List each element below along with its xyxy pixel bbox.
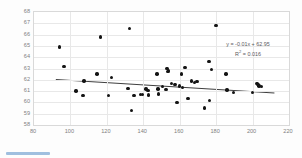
data-point: [180, 72, 183, 75]
gridline-vertical: [253, 12, 254, 125]
r-squared-value: = 0.016: [241, 51, 261, 57]
gridline-vertical: [216, 12, 217, 125]
y-axis-tick-label: 68: [10, 8, 30, 14]
data-point: [186, 97, 189, 100]
trendline-r-squared-text: R2 = 0.016: [205, 48, 291, 58]
data-point: [155, 72, 158, 75]
data-point: [62, 65, 65, 68]
y-axis-tick-label: 67: [10, 19, 30, 25]
y-axis-tick-label: 62: [10, 76, 30, 82]
gridline-horizontal: [34, 114, 289, 115]
data-point: [183, 66, 186, 69]
plot-area: [33, 11, 290, 126]
data-point: [58, 45, 61, 48]
y-axis-tick-labels: 5859606162636465666768: [8, 11, 30, 126]
gridline-horizontal: [34, 69, 289, 70]
data-point: [232, 91, 235, 94]
x-axis-tick-label: 100: [57, 128, 81, 135]
data-point: [164, 88, 167, 91]
x-axis-tick-label: 80: [21, 128, 45, 135]
data-point: [126, 87, 129, 90]
x-axis-tick-label: 120: [94, 128, 118, 135]
y-axis-tick-label: 66: [10, 31, 30, 37]
data-point: [225, 88, 228, 91]
data-point: [214, 24, 217, 27]
trendline-equation-text: y = -0.01x + 62.95: [205, 41, 291, 48]
data-point: [156, 87, 159, 90]
x-axis-tick-labels: 80100120140160180200220: [33, 128, 290, 140]
data-point: [146, 89, 149, 92]
gridline-vertical: [180, 12, 181, 125]
data-point: [175, 101, 178, 104]
trendline-equation-annotation: y = -0.01x + 62.95 R2 = 0.016: [205, 41, 291, 58]
data-point: [82, 79, 85, 82]
x-axis-tick-label: 140: [130, 128, 154, 135]
data-point: [203, 106, 206, 109]
window-edge-artifact: [6, 152, 50, 155]
y-axis-tick-label: 60: [10, 98, 30, 104]
data-point: [195, 80, 198, 83]
x-axis-tick-label: 200: [240, 128, 264, 135]
y-axis-tick-label: 64: [10, 53, 30, 59]
data-point: [130, 109, 133, 112]
scatter-chart: 5859606162636465666768 80100120140160180…: [0, 0, 302, 158]
data-point: [224, 72, 227, 75]
y-axis-tick-label: 59: [10, 110, 30, 116]
data-point: [95, 72, 98, 75]
x-axis-tick-label: 220: [276, 128, 300, 135]
x-axis-tick-label: 180: [203, 128, 227, 135]
gridline-vertical: [107, 12, 108, 125]
y-axis-tick-label: 63: [10, 65, 30, 71]
y-axis-tick-label: 65: [10, 42, 30, 48]
data-point: [74, 89, 77, 92]
y-axis-tick-label: 58: [10, 121, 30, 127]
gridline-vertical: [70, 12, 71, 125]
gridline-horizontal: [34, 80, 289, 81]
gridline-horizontal: [34, 102, 289, 103]
gridline-horizontal: [34, 35, 289, 36]
data-point: [173, 83, 176, 86]
y-axis-tick-label: 61: [10, 87, 30, 93]
gridline-vertical: [143, 12, 144, 125]
gridline-horizontal: [34, 23, 289, 24]
x-axis-tick-label: 160: [167, 128, 191, 135]
data-point: [99, 35, 102, 38]
